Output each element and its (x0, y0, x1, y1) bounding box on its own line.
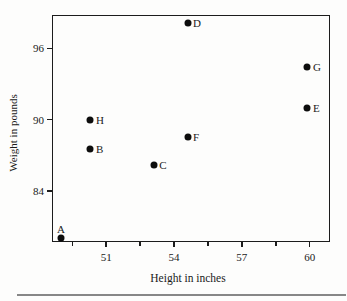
data-point-H (87, 116, 94, 123)
bottom-divider (17, 294, 346, 296)
x-axis-tick-label: 51 (101, 251, 112, 263)
data-point-label-F: F (193, 131, 199, 143)
y-axis-tick-label: 90 (18, 114, 44, 126)
y-axis-tick (47, 48, 52, 50)
y-axis-tick (47, 119, 52, 121)
x-axis-minor-tick (207, 242, 209, 246)
data-point-label-C: C (159, 159, 166, 171)
x-axis-minor-tick (72, 242, 74, 246)
x-axis-tick-label: 54 (169, 251, 180, 263)
data-point-F (184, 134, 191, 141)
y-axis-title: Weight in pounds (7, 94, 19, 171)
y-axis-tick (47, 190, 52, 192)
data-point-label-E: E (313, 102, 320, 114)
x-axis-tick-label: 60 (304, 251, 315, 263)
y-axis-tick-label: 84 (18, 185, 44, 197)
x-axis-minor-tick (275, 242, 277, 246)
scatter-figure: Weight in pounds Height in inches 515457… (0, 0, 347, 301)
x-axis-tick (105, 242, 107, 247)
data-point-label-H: H (96, 114, 104, 126)
y-axis-tick-label: 96 (18, 42, 44, 54)
data-point-B (87, 146, 94, 153)
x-axis-tick-label: 57 (236, 251, 247, 263)
x-axis-minor-tick (139, 242, 141, 246)
data-point-A (58, 235, 65, 242)
data-point-label-G: G (313, 61, 321, 73)
data-point-label-A: A (57, 223, 65, 235)
data-point-E (304, 104, 311, 111)
x-axis-title: Height in inches (150, 272, 225, 284)
data-point-D (184, 20, 191, 27)
plot-area (52, 15, 330, 242)
data-point-G (304, 64, 311, 71)
x-axis-tick (173, 242, 175, 247)
data-point-C (150, 161, 157, 168)
data-point-label-D: D (193, 17, 201, 29)
x-axis-tick (309, 242, 311, 247)
x-axis-tick (241, 242, 243, 247)
data-point-label-B: B (96, 143, 103, 155)
